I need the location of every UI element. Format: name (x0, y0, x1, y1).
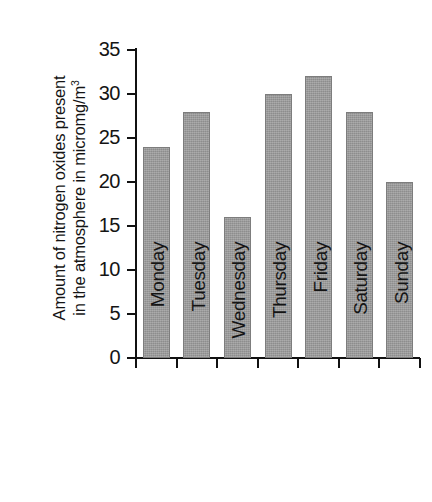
y-tick-label-25: 25 (78, 127, 120, 147)
x-axis-label-friday: Friday (310, 242, 332, 372)
y-tick-label-20: 20 (78, 171, 120, 191)
y-tick-label-5: 5 (78, 303, 120, 323)
x-tick-5 (338, 358, 340, 368)
x-axis-label-thursday: Thursday (269, 242, 291, 372)
y-tick-label-30: 30 (78, 83, 120, 103)
bar-chart-figure: Amount of nitrogen oxides present in the… (0, 0, 432, 502)
y-tick-20 (127, 181, 136, 183)
y-axis-title-line-2-text: in the atmosphere in micromg/m (70, 86, 88, 316)
y-tick-25 (127, 137, 136, 139)
y-tick-label-10: 10 (78, 259, 120, 279)
y-tick-10 (127, 269, 136, 271)
y-tick-35 (127, 49, 136, 51)
y-tick-label-15: 15 (78, 215, 120, 235)
y-tick-15 (127, 225, 136, 227)
y-axis-title-line-2: in the atmosphere in micromg/m3 (69, 80, 89, 315)
x-axis-label-wednesday: Wednesday (228, 242, 250, 372)
y-tick-label-35: 35 (78, 39, 120, 59)
y-tick-label-wrap-0: 0 (78, 347, 120, 367)
x-axis-label-monday: Monday (147, 242, 169, 372)
x-axis-label-tuesday: Tuesday (188, 242, 210, 372)
y-tick-label-wrap-35: 35 (78, 39, 120, 59)
x-axis-label-saturday: Saturday (350, 242, 372, 372)
x-tick-4 (297, 358, 299, 368)
y-tick-label-wrap-15: 15 (78, 215, 120, 235)
y-tick-5 (127, 313, 136, 315)
x-tick-2 (216, 358, 218, 368)
y-tick-label-0: 0 (78, 347, 120, 367)
x-tick-0 (135, 358, 137, 368)
y-tick-30 (127, 93, 136, 95)
x-axis-label-sunday: Sunday (391, 242, 413, 372)
y-tick-label-wrap-30: 30 (78, 83, 120, 103)
x-tick-7 (419, 358, 421, 368)
y-tick-label-wrap-25: 25 (78, 127, 120, 147)
x-tick-3 (257, 358, 259, 368)
y-tick-label-wrap-5: 5 (78, 303, 120, 323)
x-tick-1 (176, 358, 178, 368)
y-axis-title-line-1: Amount of nitrogen oxides present (49, 76, 69, 321)
y-tick-label-wrap-10: 10 (78, 259, 120, 279)
x-tick-6 (378, 358, 380, 368)
y-tick-label-wrap-20: 20 (78, 171, 120, 191)
